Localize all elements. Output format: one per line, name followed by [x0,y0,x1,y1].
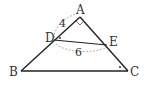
triangle-diagram: A B C D E 4 6 [0,0,146,87]
label-b: B [9,65,18,79]
right-angle-marker [76,21,84,25]
label-c: C [130,65,139,79]
label-d: D [45,31,55,45]
segment-de [54,40,107,45]
angle-dot-d [59,37,61,39]
measure-ad: 4 [59,17,66,30]
angle-dot-c [119,66,121,68]
label-e: E [109,35,118,49]
measure-de: 6 [75,46,82,59]
label-a: A [75,3,85,17]
side-ac [80,17,128,71]
dimension-arc-ad [54,13,78,38]
